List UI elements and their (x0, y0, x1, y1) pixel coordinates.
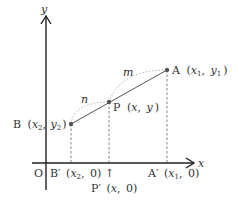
point-B (69, 122, 73, 126)
point-P (107, 100, 111, 104)
point-P-prime-arrow-icon: ↑ (105, 167, 114, 180)
point-A (165, 68, 169, 72)
origin-label: O (34, 167, 43, 180)
section-formula-diagram: y x O n m A (x1, y1) B (x2, y2) P (x, y)… (0, 0, 239, 207)
point-A-prime-label: A′ (x1, 0) (147, 167, 199, 181)
point-B-label: B (x2, y2) (13, 118, 67, 132)
ratio-label-n: n (81, 93, 88, 106)
point-B-prime-label: B′ (x2, 0) (50, 167, 101, 181)
point-P-label: P (x, y) (113, 101, 159, 114)
point-P-prime-label: P′ (x, 0) (91, 182, 137, 195)
y-axis-label: y (40, 3, 48, 16)
ratio-label-m: m (123, 66, 133, 79)
point-A-label: A (x1, y1) (171, 64, 227, 78)
